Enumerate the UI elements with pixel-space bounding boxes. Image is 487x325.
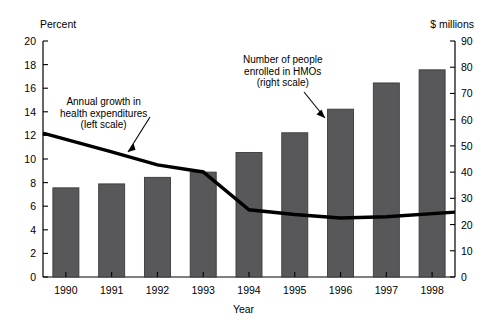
left-tick-label: 4 [10,225,36,236]
left-tick-label: 20 [10,36,36,47]
right-tick-label: 60 [461,115,487,126]
bar [190,172,216,277]
bar [236,152,262,277]
right-axis-ticks [450,41,455,277]
left-tick-label: 12 [10,130,36,141]
right-tick-label: 0 [461,272,487,283]
line-annotation: Annual growth in health expenditures (le… [60,96,147,131]
bar [328,109,354,277]
left-tick-label: 8 [10,178,36,189]
left-tick-label: 10 [10,154,36,165]
left-tick-label: 0 [10,272,36,283]
bar [373,83,399,277]
bar [282,133,308,277]
bar [419,70,445,277]
left-tick-label: 16 [10,83,36,94]
right-tick-label: 70 [461,88,487,99]
chart-container: Percent $ millions 02468101214161820 010… [0,0,487,325]
left-axis-ticks [43,41,48,277]
bar-annotation-row-2: enrolled in HMOs [243,66,323,78]
x-tick-label: 1998 [402,284,462,296]
chart-canvas [0,0,487,325]
bar-annotation-row-1: Number of people [243,54,323,66]
right-tick-label: 10 [461,246,487,257]
bar [53,188,79,277]
bar-annotation-row-3: (right scale) [243,77,323,89]
right-tick-label: 40 [461,167,487,178]
right-tick-label: 90 [461,36,487,47]
bar [144,177,170,277]
line-annotation-row-2: health expenditures [60,108,147,120]
right-tick-label: 80 [461,62,487,73]
right-tick-label: 20 [461,220,487,231]
left-tick-label: 2 [10,248,36,259]
x-axis-title: Year [0,303,487,315]
bar [99,184,125,277]
left-tick-label: 6 [10,201,36,212]
left-tick-label: 18 [10,60,36,71]
line-annotation-row-1: Annual growth in [60,96,147,108]
left-tick-label: 14 [10,107,36,118]
right-tick-label: 50 [461,141,487,152]
bar-annotation: Number of people enrolled in HMOs (right… [243,54,323,89]
right-tick-label: 30 [461,193,487,204]
line-annotation-row-3: (left scale) [60,119,147,131]
